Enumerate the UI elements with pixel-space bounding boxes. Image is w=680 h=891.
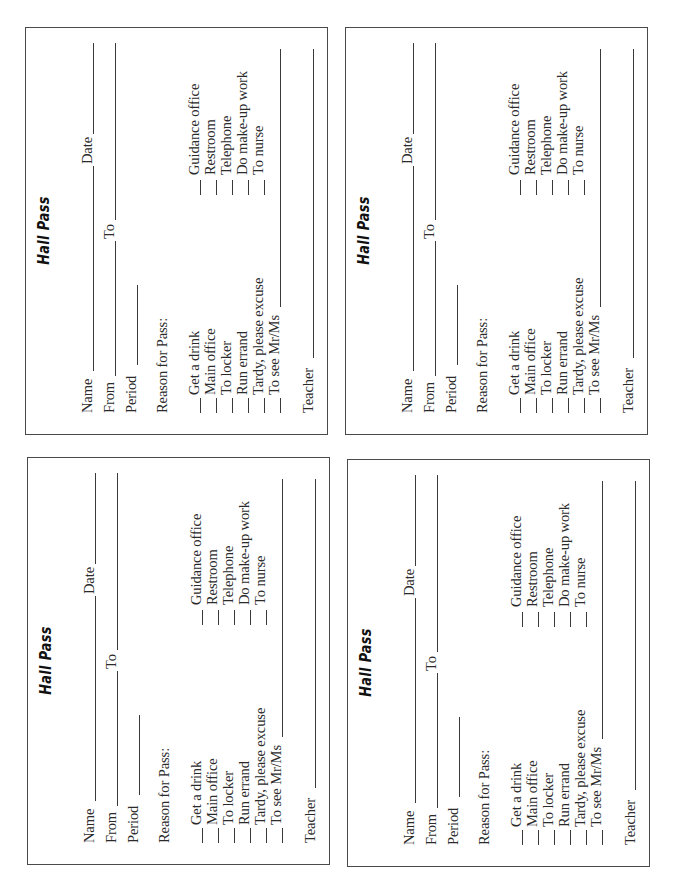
date-field[interactable] [93,43,94,134]
date-field[interactable] [95,473,96,564]
checkbox-to-see[interactable] [280,398,281,413]
from-label: From [103,812,119,843]
checkbox-make-up-work[interactable] [568,180,569,195]
date-label: Date [401,569,417,596]
to-see-field[interactable] [600,49,601,307]
checkbox-get-a-drink[interactable] [520,398,521,413]
hall-pass-content: Hall Pass Name Date From To Period Reaso… [346,28,646,433]
checkbox-guidance-office[interactable] [522,612,523,627]
checkbox-run-errand[interactable] [250,828,251,843]
from-field[interactable] [435,241,436,376]
date-label: Date [79,137,95,164]
checkbox-make-up-work[interactable] [250,610,251,625]
teacher-field[interactable] [315,479,316,788]
teacher-field[interactable] [635,481,636,790]
reason-tardy: Tardy, please excuse [570,278,586,395]
checkbox-to-nurse[interactable] [584,180,585,195]
checkbox-telephone[interactable] [552,180,553,195]
period-field[interactable] [457,285,458,365]
checkbox-telephone[interactable] [554,612,555,627]
reason-main-office: Main office [522,328,538,395]
teacher-field[interactable] [313,49,314,358]
checkbox-to-locker[interactable] [234,828,235,843]
from-field[interactable] [115,241,116,376]
date-field[interactable] [415,475,416,566]
checkbox-get-a-drink[interactable] [202,828,203,843]
from-field[interactable] [437,673,438,808]
checkbox-restroom[interactable] [536,180,537,195]
checkbox-main-office[interactable] [536,398,537,413]
hall-pass-card-top-left: Hall Pass Name Date From To Period Reaso… [25,27,328,435]
checkbox-telephone[interactable] [234,610,235,625]
checkbox-make-up-work[interactable] [570,612,571,627]
checkbox-get-a-drink[interactable] [522,830,523,845]
checkbox-telephone[interactable] [232,180,233,195]
reason-restroom: Restroom [202,119,218,175]
checkbox-to-see[interactable] [600,398,601,413]
period-field[interactable] [139,715,140,795]
checkbox-tardy[interactable] [264,398,265,413]
reason-restroom: Restroom [522,119,538,175]
reason-telephone: Telephone [540,548,556,607]
checkbox-to-locker[interactable] [232,398,233,413]
hall-pass-content: Hall Pass Name Date From To Period Reaso… [348,460,648,865]
to-see-field[interactable] [280,49,281,307]
checkbox-tardy[interactable] [266,828,267,843]
reason-to-locker: To locker [540,773,556,827]
checkbox-to-nurse[interactable] [266,610,267,625]
teacher-field[interactable] [633,49,634,358]
checkbox-restroom[interactable] [538,612,539,627]
checkbox-run-errand[interactable] [568,398,569,413]
from-field[interactable] [117,671,118,806]
date-field[interactable] [413,43,414,134]
name-field[interactable] [413,166,414,371]
checkbox-make-up-work[interactable] [248,180,249,195]
checkbox-main-office[interactable] [216,398,217,413]
checkbox-tardy[interactable] [586,830,587,845]
checkbox-main-office[interactable] [218,828,219,843]
hall-pass-content: Hall Pass Name Date From To Period Reaso… [28,458,328,863]
pass-title: Hall Pass [355,58,373,402]
from-label: From [423,814,439,845]
name-field[interactable] [415,598,416,803]
reason-get-a-drink: Get a drink [186,331,202,395]
to-field[interactable] [435,43,436,220]
from-label: From [421,382,437,413]
reason-run-errand: Run errand [234,331,250,395]
checkbox-guidance-office[interactable] [520,180,521,195]
to-field[interactable] [115,43,116,220]
name-label: Name [79,379,95,413]
reason-tardy: Tardy, please excuse [252,708,268,825]
checkbox-to-nurse[interactable] [264,180,265,195]
reason-to-locker: To locker [220,771,236,825]
reason-label: Reason for Pass: [156,748,172,843]
period-field[interactable] [459,717,460,797]
to-see-field[interactable] [282,479,283,737]
to-see-field[interactable] [602,481,603,739]
reason-to-nurse: To nurse [252,556,268,605]
checkbox-main-office[interactable] [538,830,539,845]
checkbox-guidance-office[interactable] [200,180,201,195]
name-field[interactable] [93,166,94,371]
checkbox-to-see[interactable] [602,830,603,845]
to-field[interactable] [437,475,438,652]
to-field[interactable] [117,473,118,650]
reason-get-a-drink: Get a drink [508,763,524,827]
checkbox-guidance-office[interactable] [202,610,203,625]
checkbox-restroom[interactable] [218,610,219,625]
checkbox-to-locker[interactable] [554,830,555,845]
date-label: Date [81,567,97,594]
checkbox-to-locker[interactable] [552,398,553,413]
hall-pass-content: Hall Pass Name Date From To Period Reaso… [26,28,326,433]
name-field[interactable] [95,596,96,801]
checkbox-get-a-drink[interactable] [200,398,201,413]
period-field[interactable] [137,285,138,365]
checkbox-tardy[interactable] [584,398,585,413]
checkbox-to-see[interactable] [282,828,283,843]
reason-label: Reason for Pass: [474,318,490,413]
checkbox-run-errand[interactable] [570,830,571,845]
teacher-label: Teacher [302,798,318,843]
checkbox-to-nurse[interactable] [586,612,587,627]
checkbox-restroom[interactable] [216,180,217,195]
checkbox-run-errand[interactable] [248,398,249,413]
